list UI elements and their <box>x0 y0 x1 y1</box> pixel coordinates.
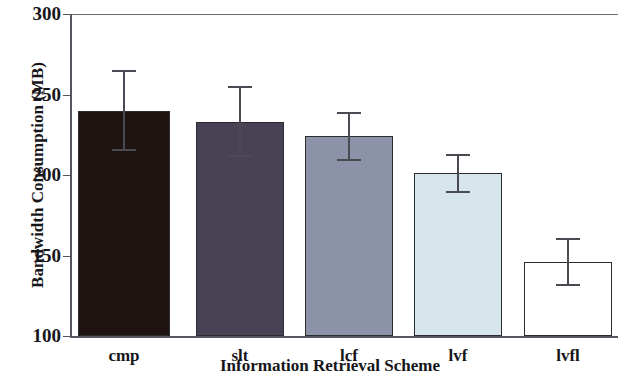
y-tick-label: 100 <box>33 325 62 347</box>
error-bar-lvf <box>414 154 502 193</box>
error-bar-cap-lower <box>337 159 361 161</box>
error-bar-stem <box>457 154 458 193</box>
error-bar-stem <box>567 238 568 286</box>
y-tick-label: 200 <box>33 164 62 186</box>
error-bar-stem <box>348 112 349 160</box>
error-bar-stem <box>239 86 240 157</box>
error-bar-cap-upper <box>337 112 361 114</box>
axis-top-spine <box>70 14 618 15</box>
x-axis-title: Information Retrieval Scheme <box>70 356 590 376</box>
error-bar-cap-upper <box>556 238 580 240</box>
error-bar-cap-lower <box>228 155 252 157</box>
error-bar-cmp <box>78 70 170 151</box>
axis-bottom-spine <box>70 336 618 338</box>
y-tick-mark <box>63 14 71 15</box>
error-bar-cap-lower <box>446 191 470 193</box>
bar-lvf <box>414 173 502 336</box>
error-bar-cap-lower <box>556 284 580 286</box>
error-bar-slt <box>196 86 284 157</box>
y-tick-label: 150 <box>33 245 62 267</box>
error-bar-cap-lower <box>112 149 136 151</box>
error-bar-stem <box>123 70 124 151</box>
bar-chart-figure: Bandwidth Consumption (MB) 1001502002503… <box>0 0 630 377</box>
plot-area: 100150200250300 cmpsltlcflvflvfl <box>70 14 618 338</box>
y-tick-label: 250 <box>33 84 62 106</box>
error-bar-cap-upper <box>228 86 252 88</box>
error-bar-cap-upper <box>446 154 470 156</box>
y-tick-mark <box>63 95 71 96</box>
bar-lcf <box>305 136 393 336</box>
axis-left-spine <box>70 14 72 338</box>
error-bar-lcf <box>305 112 393 160</box>
y-tick-mark <box>63 256 71 257</box>
y-tick-mark <box>63 336 71 337</box>
error-bar-cap-upper <box>112 70 136 72</box>
error-bar-lvfl <box>524 238 612 286</box>
y-tick-mark <box>63 175 71 176</box>
y-tick-label: 300 <box>33 3 62 25</box>
